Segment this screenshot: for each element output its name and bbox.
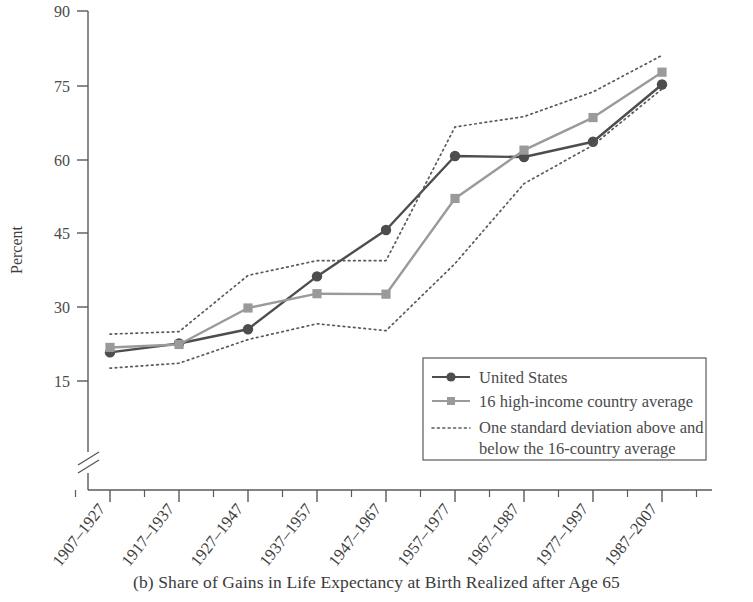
y-tick-label-75: 75 bbox=[54, 78, 70, 95]
legend-label-16-country-average: 16 high-income country average bbox=[479, 392, 693, 411]
x-tick-label-8: 1987–2007 bbox=[600, 500, 661, 570]
x-tick-label-4: 1947–1967 bbox=[324, 500, 385, 570]
figure-panel: 90 75 60 45 30 15 Percent 1907–19271917–… bbox=[0, 0, 753, 602]
data-point-s1-8[interactable] bbox=[657, 68, 666, 77]
data-point-s1-5[interactable] bbox=[450, 194, 459, 203]
data-point-s1-7[interactable] bbox=[588, 113, 597, 122]
data-point-s0-4[interactable] bbox=[381, 225, 391, 235]
data-point-s1-0[interactable] bbox=[105, 343, 114, 352]
x-tick-label-7: 1977–1997 bbox=[531, 500, 592, 570]
x-tick-label-5: 1957–1977 bbox=[393, 500, 454, 570]
life-expectancy-line-chart: 90 75 60 45 30 15 Percent 1907–19271917–… bbox=[0, 0, 753, 572]
legend-marker-circle-icon bbox=[446, 372, 455, 381]
data-series-layer bbox=[105, 55, 667, 368]
figure-caption: (b) Share of Gains in Life Expectancy at… bbox=[0, 572, 753, 593]
data-point-s1-2[interactable] bbox=[243, 303, 252, 312]
legend-label-standard-deviation-line2: below the 16-country average bbox=[479, 439, 676, 458]
y-axis-title: Percent bbox=[8, 225, 25, 274]
data-point-s0-3[interactable] bbox=[312, 271, 322, 281]
data-point-s1-3[interactable] bbox=[312, 289, 321, 298]
legend-label-standard-deviation-line1: One standard deviation above and bbox=[479, 418, 704, 437]
y-tick-label-90: 90 bbox=[54, 3, 70, 20]
chart-legend: United States 16 high-income country ave… bbox=[423, 358, 706, 460]
y-tick-label-15: 15 bbox=[54, 373, 70, 390]
legend-marker-square-icon bbox=[447, 397, 455, 405]
data-point-s1-4[interactable] bbox=[381, 290, 390, 299]
y-tick-label-30: 30 bbox=[54, 299, 70, 316]
x-axis-ticks bbox=[76, 490, 697, 502]
data-point-s0-8[interactable] bbox=[657, 79, 667, 89]
y-tick-label-45: 45 bbox=[54, 225, 70, 242]
x-tick-label-3: 1937–1957 bbox=[255, 500, 316, 570]
x-tick-label-0: 1907–1927 bbox=[48, 500, 109, 570]
data-point-s0-5[interactable] bbox=[450, 151, 460, 161]
data-point-s1-6[interactable] bbox=[519, 146, 528, 155]
x-tick-label-2: 1927–1947 bbox=[186, 500, 247, 570]
y-axis-ticks bbox=[77, 11, 88, 381]
data-point-s1-1[interactable] bbox=[174, 340, 183, 349]
x-tick-label-6: 1967–1987 bbox=[462, 500, 523, 570]
axis-break-icon bbox=[78, 452, 99, 473]
y-tick-label-60: 60 bbox=[54, 152, 70, 169]
legend-label-united-states: United States bbox=[479, 368, 567, 387]
series-line-1 bbox=[110, 72, 662, 347]
x-tick-label-1: 1917–1937 bbox=[117, 500, 178, 570]
x-axis-tick-labels: 1907–19271917–19371927–19471937–19571947… bbox=[48, 500, 661, 570]
data-point-s0-2[interactable] bbox=[243, 324, 253, 334]
